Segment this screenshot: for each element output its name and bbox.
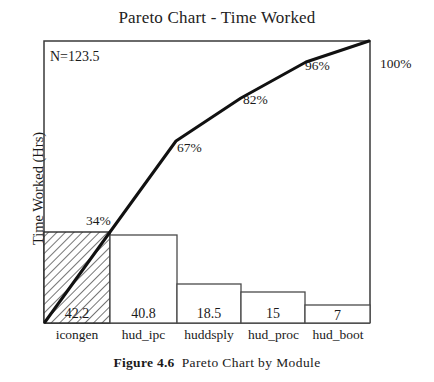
category-label-icongen: icongen xyxy=(42,327,112,343)
bar-value-hud-ipc: 40.8 xyxy=(110,306,177,322)
bar-value-huddsply: 18.5 xyxy=(177,306,241,322)
cumulative-label-82: 82% xyxy=(243,92,268,108)
cumulative-label-100: 100% xyxy=(380,56,412,72)
cumulative-label-96: 96% xyxy=(305,58,330,74)
bar-value-hud-boot: 7 xyxy=(305,308,370,324)
category-label-hud-ipc: hud_ipc xyxy=(109,327,178,343)
bar-value-hud-proc: 15 xyxy=(241,306,305,322)
pareto-chart-figure: Pareto Chart - Time Worked Time Worked (… xyxy=(0,0,434,382)
cumulative-label-34: 34% xyxy=(86,213,111,229)
category-label-hud-proc: hud_proc xyxy=(239,327,308,343)
figure-caption: Figure 4.6Pareto Chart by Module xyxy=(0,355,434,371)
figure-caption-text: Pareto Chart by Module xyxy=(182,355,321,370)
sample-size-annotation: N=123.5 xyxy=(50,49,100,65)
category-label-hud-boot: hud_boot xyxy=(303,327,373,343)
bar-value-icongen: 42.2 xyxy=(44,306,110,322)
category-label-huddsply: huddsply xyxy=(174,327,244,343)
figure-number: Figure 4.6 xyxy=(113,355,174,370)
cumulative-label-67: 67% xyxy=(177,140,202,156)
